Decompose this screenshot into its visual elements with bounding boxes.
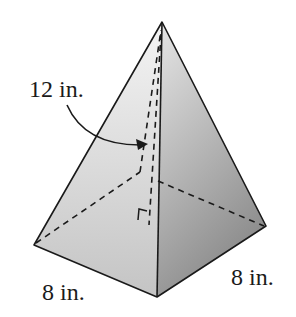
left-face — [34, 22, 162, 297]
pyramid-diagram: 12 in. 8 in. 8 in. — [0, 0, 296, 317]
base-left-label: 8 in. — [42, 279, 85, 305]
height-label: 12 in. — [29, 76, 84, 102]
right-face — [157, 22, 266, 297]
base-right-label: 8 in. — [231, 264, 274, 290]
